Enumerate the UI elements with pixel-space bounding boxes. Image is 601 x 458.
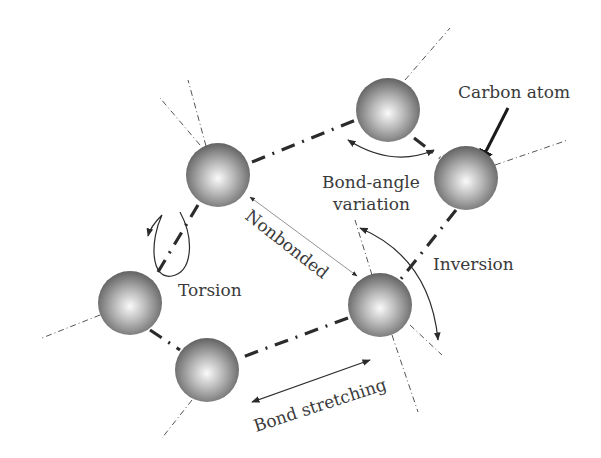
nonbonded-label: Nonbonded [242, 205, 333, 282]
atom-sphere [98, 271, 162, 335]
torsion-label: Torsion [178, 280, 242, 300]
bond-angle-label-line1: Bond-angle [322, 172, 420, 192]
force-field-diagram: Carbon atom Bond-angle variation Inversi… [0, 0, 601, 458]
torsion-arrow [148, 212, 189, 276]
atom-sphere [186, 143, 250, 207]
carbon-atom-label: Carbon atom [458, 82, 570, 102]
atom-sphere [175, 338, 239, 402]
bond-angle-label-line2: variation [332, 194, 410, 214]
atom-sphere [356, 78, 420, 142]
carbon-atom-sphere [434, 146, 498, 210]
atom-sphere [348, 273, 412, 337]
bond-stretching-label: Bond stretching [251, 374, 389, 436]
inversion-label: Inversion [433, 254, 514, 274]
